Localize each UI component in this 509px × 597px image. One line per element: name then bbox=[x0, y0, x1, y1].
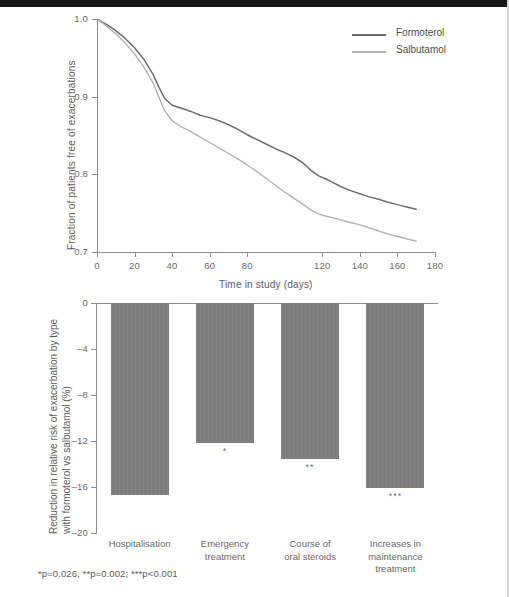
survival-y-axis bbox=[97, 19, 98, 253]
survival-x-tick bbox=[360, 253, 361, 257]
survival-x-tick-label: 60 bbox=[196, 260, 224, 271]
bar-texture bbox=[111, 303, 169, 495]
bar-category-label-line: Emergency bbox=[177, 538, 273, 551]
bar-y-axis-title-line2: with formoterol vs salbutamol (%) bbox=[61, 319, 74, 534]
survival-x-tick-label: 160 bbox=[383, 260, 411, 271]
survival-x-tick-label: 40 bbox=[158, 260, 186, 271]
survival-x-tick-label: 80 bbox=[233, 260, 261, 271]
survival-x-tick bbox=[135, 253, 136, 257]
bar[interactable] bbox=[196, 303, 254, 443]
survival-chart-panel: 0.70.80.91.0 020406080120140160180 Fract… bbox=[0, 7, 509, 290]
bar-category-label-line: Hospitalisation bbox=[92, 538, 188, 551]
bar-y-tick bbox=[91, 395, 96, 396]
bar[interactable] bbox=[366, 303, 424, 488]
bar-category-label-line: treatment bbox=[347, 563, 443, 576]
survival-x-axis bbox=[97, 252, 436, 253]
bar-category-label-line: treatment bbox=[177, 551, 273, 564]
bar-texture bbox=[196, 303, 254, 443]
survival-x-tick bbox=[172, 253, 173, 257]
survival-x-axis-title: Time in study (days) bbox=[219, 279, 313, 290]
bar-y-tick bbox=[91, 349, 96, 350]
bar-category-label: Hospitalisation bbox=[92, 538, 188, 551]
bar-category-label: Increases inmaintenancetreatment bbox=[347, 538, 443, 576]
bar-y-tick bbox=[91, 487, 96, 488]
risk-reduction-chart-panel: 0–4–8–12–16–20 ****** HospitalisationEme… bbox=[0, 290, 509, 597]
bar[interactable] bbox=[111, 303, 169, 495]
bar-category-label-line: Increases in bbox=[347, 538, 443, 551]
significance-footnote: *p=0.026, **p=0.002; ***p<0.001 bbox=[38, 568, 178, 579]
bar-category-label: Course oforal steroids bbox=[262, 538, 358, 563]
bar-texture bbox=[281, 303, 339, 459]
survival-x-tick-label: 120 bbox=[308, 260, 336, 271]
survival-x-tick bbox=[322, 253, 323, 257]
bar-y-tick bbox=[91, 303, 96, 304]
bar-y-tick-label: 0 bbox=[62, 297, 88, 308]
survival-x-tick-label: 180 bbox=[421, 260, 449, 271]
significance-marker: ** bbox=[285, 462, 335, 472]
survival-y-tick bbox=[92, 97, 97, 98]
bar-y-axis-title-line1: Reduction in relative risk of exacerbati… bbox=[48, 319, 61, 534]
survival-x-tick bbox=[397, 253, 398, 257]
significance-marker: *** bbox=[370, 491, 420, 501]
scan-artifact-band bbox=[0, 0, 509, 7]
bar-texture bbox=[366, 303, 424, 488]
survival-x-tick-label: 0 bbox=[83, 260, 111, 271]
survival-x-tick-label: 20 bbox=[121, 260, 149, 271]
survival-y-axis-title: Fraction of patients free of exacerbatio… bbox=[66, 60, 77, 250]
bar-y-tick bbox=[91, 441, 96, 442]
survival-x-tick bbox=[97, 253, 98, 257]
bar[interactable] bbox=[281, 303, 339, 459]
survival-x-tick-label: 140 bbox=[346, 260, 374, 271]
bar-y-tick bbox=[91, 533, 96, 534]
bar-y-axis-title: Reduction in relative risk of exacerbati… bbox=[48, 319, 73, 534]
survival-x-tick bbox=[210, 253, 211, 257]
bar-category-label-line: maintenance bbox=[347, 551, 443, 564]
bar-category-label-line: oral steroids bbox=[262, 551, 358, 564]
legend-label: Salbutamol bbox=[396, 44, 446, 55]
survival-y-tick bbox=[92, 174, 97, 175]
survival-y-tick-label: 1.0 bbox=[58, 13, 88, 24]
significance-marker: * bbox=[200, 446, 250, 456]
legend-line-swatch bbox=[352, 51, 386, 53]
legend-label: Formoterol bbox=[396, 27, 444, 38]
legend-line-swatch bbox=[352, 34, 386, 36]
survival-x-tick bbox=[435, 253, 436, 257]
survival-y-tick bbox=[92, 19, 97, 20]
bar-category-label: Emergencytreatment bbox=[177, 538, 273, 563]
survival-x-tick bbox=[247, 253, 248, 257]
survival-legend: FormoterolSalbutamol bbox=[352, 27, 502, 61]
bar-plot-area: ****** bbox=[97, 303, 438, 533]
bar-category-label-line: Course of bbox=[262, 538, 358, 551]
